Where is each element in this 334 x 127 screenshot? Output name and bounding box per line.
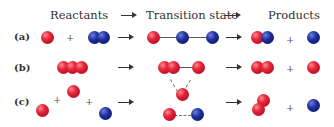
atom-red	[261, 61, 274, 74]
atom-blue	[176, 31, 189, 44]
reaction-arrow	[226, 102, 240, 103]
header-arrow-2	[225, 15, 239, 16]
atom-blue	[206, 31, 219, 44]
reaction-arrow	[118, 37, 132, 38]
atom-blue	[261, 31, 274, 44]
reaction-arrow	[226, 67, 240, 68]
reaction-arrow	[118, 67, 132, 68]
atom-red	[307, 61, 320, 74]
atom-blue	[99, 107, 112, 120]
plus-sign: +	[286, 102, 294, 113]
row-label-c: (c)	[14, 96, 30, 107]
plus-sign: +	[286, 63, 294, 74]
plus-sign: +	[286, 34, 294, 45]
row-label-b: (b)	[14, 62, 30, 73]
atom-red	[36, 104, 49, 117]
atom-blue	[97, 31, 110, 44]
reaction-arrow	[226, 37, 240, 38]
atom-red	[75, 61, 88, 74]
header-reactants: Reactants	[50, 8, 108, 22]
atom-red	[41, 31, 54, 44]
atom-red	[167, 61, 180, 74]
header-arrow-1	[121, 15, 135, 16]
header-products: Products	[268, 8, 320, 22]
plus-sign: +	[53, 94, 61, 105]
partial-bond	[186, 37, 206, 38]
atom-red	[67, 85, 80, 98]
atom-red	[163, 108, 176, 121]
atom-blue	[307, 99, 320, 112]
atom-red	[252, 103, 265, 116]
reaction-arrow	[118, 102, 132, 103]
atom-red	[192, 61, 205, 74]
atom-red	[147, 31, 160, 44]
plus-sign: +	[66, 32, 74, 43]
plus-sign: +	[85, 96, 93, 107]
atom-blue	[191, 108, 204, 121]
row-label-a: (a)	[14, 31, 30, 42]
atom-red	[176, 88, 189, 101]
atom-blue	[307, 31, 320, 44]
